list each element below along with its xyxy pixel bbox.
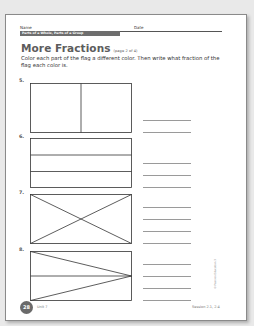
flag-8[interactable] bbox=[30, 251, 132, 301]
title-subtitle: (page 2 of 4) bbox=[114, 49, 138, 53]
page-title: More Fractions(page 2 of 4) bbox=[21, 42, 138, 54]
instructions: Color each part of the flag a different … bbox=[21, 55, 221, 70]
answer-line[interactable] bbox=[143, 264, 191, 265]
copyright-notice: © Pearson Education 3 bbox=[214, 259, 217, 289]
problem-number: 8. bbox=[19, 247, 24, 252]
flag-6-drawing bbox=[30, 138, 132, 188]
answer-line[interactable] bbox=[143, 175, 191, 176]
answer-line[interactable] bbox=[143, 219, 191, 220]
answer-line[interactable] bbox=[143, 132, 191, 133]
title-main: More Fractions bbox=[21, 42, 111, 54]
answer-line[interactable] bbox=[143, 231, 191, 232]
section-band: Parts of a Whole, Parts of a Group bbox=[20, 31, 120, 36]
date-label: Date bbox=[134, 25, 144, 30]
problem-number: 7. bbox=[19, 190, 24, 195]
worksheet-page: Name Date Parts of a Whole, Parts of a G… bbox=[5, 14, 247, 321]
problem-number: 6. bbox=[19, 134, 24, 139]
answer-line[interactable] bbox=[143, 300, 191, 301]
unit-label: Unit 7 bbox=[37, 305, 47, 309]
session-label: Session 2.1, 2.4 bbox=[192, 305, 220, 309]
answer-line[interactable] bbox=[143, 207, 191, 208]
flag-8-drawing bbox=[30, 251, 132, 301]
answer-line[interactable] bbox=[143, 187, 191, 188]
answer-line[interactable] bbox=[143, 163, 191, 164]
answer-line[interactable] bbox=[143, 288, 191, 289]
answer-line[interactable] bbox=[143, 276, 191, 277]
answer-line[interactable] bbox=[143, 120, 191, 121]
page-number-badge: 28 bbox=[20, 301, 33, 314]
flag-5-drawing bbox=[30, 83, 132, 133]
name-label: Name bbox=[20, 25, 32, 30]
flag-7-drawing bbox=[30, 194, 132, 244]
flag-7[interactable] bbox=[30, 194, 132, 244]
flag-6[interactable] bbox=[30, 138, 132, 188]
answer-line[interactable] bbox=[143, 243, 191, 244]
problem-number: 5. bbox=[19, 78, 24, 83]
flag-5[interactable] bbox=[30, 83, 132, 133]
